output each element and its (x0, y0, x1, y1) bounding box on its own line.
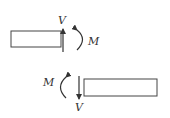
moment-arc-clockwise-icon (77, 30, 83, 50)
shear-label-bottom: V (75, 101, 84, 114)
moment-label-bottom: M (42, 76, 55, 89)
left-segment: V M (11, 14, 100, 52)
moment-arc-counterclockwise-icon (61, 77, 67, 98)
sign-convention-diagram: V M V M (0, 0, 170, 118)
shear-label-top: V (58, 14, 67, 27)
right-segment: V M (42, 76, 157, 114)
moment-label-top: M (87, 35, 100, 48)
beam-segment-right (84, 79, 157, 96)
beam-segment-left (11, 31, 61, 47)
